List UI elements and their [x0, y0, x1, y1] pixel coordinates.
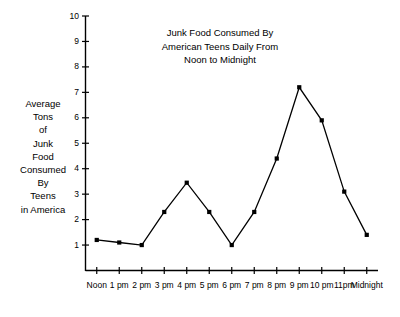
data-point-marker: [320, 118, 324, 122]
chart-figure: Junk Food Consumed By American Teens Dai…: [0, 0, 400, 317]
y-tick-label: 1: [61, 241, 79, 250]
y-tick-label: 4: [61, 164, 79, 173]
y-tick-label: 8: [61, 62, 79, 71]
data-point-markers: [95, 85, 369, 247]
data-point-marker: [95, 238, 99, 242]
data-point-marker: [252, 210, 256, 214]
y-tick-label: 2: [61, 215, 79, 224]
y-tick-label: 6: [61, 113, 79, 122]
data-point-marker: [365, 233, 369, 237]
data-point-marker: [275, 156, 279, 160]
y-tick-label: 9: [61, 37, 79, 46]
data-point-marker: [230, 243, 234, 247]
data-point-marker: [162, 210, 166, 214]
data-point-marker: [185, 181, 189, 185]
data-series-line: [97, 87, 367, 245]
y-tick-label: 10: [61, 12, 79, 21]
x-tick-label: Midnight: [345, 281, 389, 290]
data-point-marker: [207, 210, 211, 214]
data-point-marker: [117, 240, 121, 244]
data-point-marker: [140, 243, 144, 247]
y-tick-label: 7: [61, 88, 79, 97]
data-point-marker: [297, 85, 301, 89]
data-point-marker: [342, 190, 346, 194]
y-tick-label: 3: [61, 190, 79, 199]
axes: [86, 16, 379, 271]
y-tick-label: 5: [61, 139, 79, 148]
plot-area: [0, 0, 400, 317]
